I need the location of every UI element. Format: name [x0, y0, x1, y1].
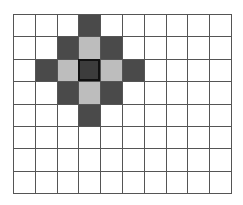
- grid-cell-r2-c2: [57, 59, 79, 81]
- grid-cell-r5-c1: [35, 126, 57, 148]
- grid-cell-r5-c0: [13, 126, 35, 148]
- grid-cell-r7-c8: [187, 171, 209, 193]
- grid-cell-r1-c6: [144, 36, 166, 58]
- grid-cell-r2-c7: [166, 59, 188, 81]
- grid-cell-r6-c3: [78, 148, 100, 170]
- grid-cell-r4-c7: [166, 104, 188, 126]
- grid-cell-r4-c0: [13, 104, 35, 126]
- grid-cell-r0-c8: [187, 14, 209, 36]
- grid-cell-r0-c9: [209, 14, 231, 36]
- grid-cell-r0-c1: [35, 14, 57, 36]
- grid-cell-r4-c2: [57, 104, 79, 126]
- grid-cell-r7-c0: [13, 171, 35, 193]
- grid-cell-r3-c8: [187, 81, 209, 103]
- grid-cell-r6-c5: [122, 148, 144, 170]
- grid-cell-r6-c7: [166, 148, 188, 170]
- grid-cell-r6-c0: [13, 148, 35, 170]
- grid-cell-r1-c8: [187, 36, 209, 58]
- grid-cell-r1-c4: [100, 36, 122, 58]
- grid-cell-r4-c5: [122, 104, 144, 126]
- grid-cell-r1-c2: [57, 36, 79, 58]
- grid-cell-r5-c2: [57, 126, 79, 148]
- grid-cell-r6-c2: [57, 148, 79, 170]
- grid-cell-r7-c7: [166, 171, 188, 193]
- grid-cell-r2-c5: [122, 59, 144, 81]
- grid-cell-r7-c6: [144, 171, 166, 193]
- grid-cell-r2-c8: [187, 59, 209, 81]
- grid-cell-r7-c4: [100, 171, 122, 193]
- grid-cell-r2-c4: [100, 59, 122, 81]
- grid-cell-r1-c9: [209, 36, 231, 58]
- grid-cell-r5-c4: [100, 126, 122, 148]
- grid-cell-r5-c7: [166, 126, 188, 148]
- grid-cell-r0-c3: [78, 14, 100, 36]
- grid-cell-r0-c4: [100, 14, 122, 36]
- grid-cell-r0-c7: [166, 14, 188, 36]
- grid-cell-r0-c6: [144, 14, 166, 36]
- grid-cell-r4-c9: [209, 104, 231, 126]
- grid-cell-r2-c3: [78, 59, 100, 81]
- grid-cell-r6-c8: [187, 148, 209, 170]
- grid-cell-r4-c4: [100, 104, 122, 126]
- grid-cell-r7-c5: [122, 171, 144, 193]
- grid-cell-r5-c5: [122, 126, 144, 148]
- grid-cell-r2-c9: [209, 59, 231, 81]
- grid-cell-r3-c7: [166, 81, 188, 103]
- grid-cell-r2-c0: [13, 59, 35, 81]
- grid-cell-r3-c4: [100, 81, 122, 103]
- grid-cell-r3-c3: [78, 81, 100, 103]
- grid-cell-r5-c6: [144, 126, 166, 148]
- pixel-grid: [13, 14, 232, 194]
- grid-cell-r5-c3: [78, 126, 100, 148]
- grid-cell-r5-c8: [187, 126, 209, 148]
- grid-cell-r4-c6: [144, 104, 166, 126]
- grid-cell-r3-c2: [57, 81, 79, 103]
- grid-cell-r7-c2: [57, 171, 79, 193]
- grid-cell-r1-c7: [166, 36, 188, 58]
- grid-cell-r0-c0: [13, 14, 35, 36]
- grid-cell-r4-c8: [187, 104, 209, 126]
- grid-cell-r6-c9: [209, 148, 231, 170]
- grid-cell-r0-c2: [57, 14, 79, 36]
- grid-cell-r2-c1: [35, 59, 57, 81]
- grid-cell-r5-c9: [209, 126, 231, 148]
- grid-cell-r1-c1: [35, 36, 57, 58]
- grid-cell-r2-c6: [144, 59, 166, 81]
- grid-cell-r1-c0: [13, 36, 35, 58]
- grid-cell-r4-c1: [35, 104, 57, 126]
- grid-cell-r6-c6: [144, 148, 166, 170]
- grid-cell-r3-c5: [122, 81, 144, 103]
- grid-cell-r0-c5: [122, 14, 144, 36]
- grid-cell-r3-c1: [35, 81, 57, 103]
- grid-cell-r7-c1: [35, 171, 57, 193]
- grid-cell-r3-c9: [209, 81, 231, 103]
- grid-cell-r1-c3: [78, 36, 100, 58]
- grid-cell-r7-c3: [78, 171, 100, 193]
- grid-cell-r3-c0: [13, 81, 35, 103]
- grid-cell-r7-c9: [209, 171, 231, 193]
- grid-cell-r3-c6: [144, 81, 166, 103]
- grid-cell-r4-c3: [78, 104, 100, 126]
- grid-cell-r1-c5: [122, 36, 144, 58]
- grid-cell-r6-c1: [35, 148, 57, 170]
- grid-cell-r6-c4: [100, 148, 122, 170]
